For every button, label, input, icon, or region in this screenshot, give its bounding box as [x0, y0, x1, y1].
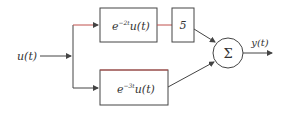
bottom-to-sum-arrow: [168, 62, 214, 87]
gain-label: 5: [180, 19, 187, 32]
bottom-block-label: e−3tu(t): [117, 82, 155, 96]
output-label: y(t): [250, 37, 269, 48]
gain-to-sum-arrow: [194, 29, 215, 42]
input-label: u(t): [17, 50, 37, 63]
top-block-label: e−2tu(t): [112, 19, 150, 33]
sigma-symbol: Σ: [223, 46, 232, 61]
block-diagram: u(t) e−2tu(t) 5 e−3tu(t) Σ y(t): [0, 0, 287, 113]
